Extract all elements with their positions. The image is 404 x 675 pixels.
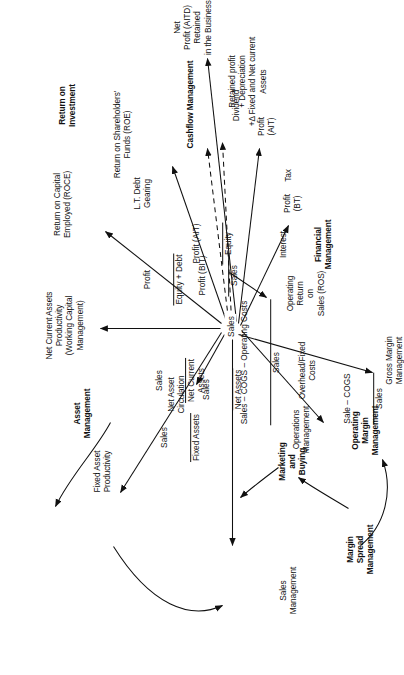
node-tax[interactable]: Tax	[283, 169, 293, 182]
ratio-numerator: Sale – COGS	[342, 372, 352, 424]
ratio-profit-bit-over-sales[interactable]: Profit (BIT) Sales	[177, 254, 260, 296]
node-profit-bt[interactable]: Profit (BT)	[282, 194, 302, 213]
cluster-sales-management[interactable]: Sales Management	[278, 566, 298, 613]
ratio-numerator: Profit (BIT)	[197, 254, 207, 296]
ratio-sales-over-fixed-assets[interactable]: Sales Fixed Assets	[139, 412, 222, 461]
node-dividend[interactable]: Dividend	[231, 89, 241, 120]
node-profit-ait[interactable]: Profit (AIT)	[256, 117, 276, 136]
node-return-on-shareholders-funds[interactable]: Return on Shareholders' Funds (ROE)	[112, 90, 132, 177]
ratio-denominator: Sales	[270, 299, 281, 425]
ratio-numerator: Sales	[159, 412, 169, 461]
ratio-numerator: Sales	[154, 358, 164, 403]
ratio-sales-cogs-opcosts-over-sales[interactable]: Sales – COGS – Operating Costs Sales	[219, 299, 302, 425]
node-lt-debt-gearing[interactable]: L.T. Debt Gearing	[132, 177, 152, 209]
ratio-numerator: Profit	[142, 253, 152, 305]
cluster-return-on-investment[interactable]: Return on Investment	[57, 84, 77, 127]
cluster-cashflow-management[interactable]: Cashflow Management	[185, 60, 195, 148]
node-fixed-asset-productivity[interactable]: Fixed Asset Productivity	[92, 450, 112, 492]
node-interest[interactable]: Interest	[278, 231, 288, 258]
ratio-denominator: Sales	[228, 254, 239, 296]
ratio-denominator: Net Current Assets	[185, 358, 206, 403]
ratio-sale-minus-cogs-over-sales[interactable]: Sale – COGS Sales	[322, 372, 404, 424]
cluster-margin-spread-management[interactable]: Margin Spread Management	[345, 524, 376, 574]
ratio-numerator: Sales – COGS – Operating Costs	[239, 299, 249, 425]
node-net-profit-aitd-retained[interactable]: Net Profit (AITD) Retained in the Busine…	[172, 0, 213, 54]
cluster-financial-management[interactable]: Financial Management	[313, 219, 333, 269]
cluster-asset-management[interactable]: Asset Management	[72, 388, 92, 438]
ratio-denominator: Sales	[373, 372, 384, 424]
ratio-sales-over-net-current-assets[interactable]: Sales Net Current Assets	[134, 358, 227, 403]
node-net-current-assets-productivity[interactable]: Net Current Assets Productivity (Working…	[44, 291, 85, 359]
node-return-on-capital-employed[interactable]: Return on Capital Employed (ROCE)	[52, 170, 72, 237]
ratio-denominator: Fixed Assets	[190, 412, 201, 461]
